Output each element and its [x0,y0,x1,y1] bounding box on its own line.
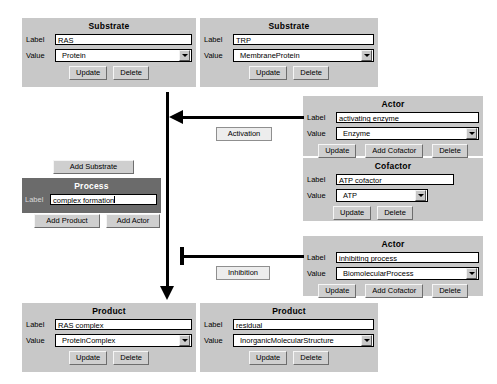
chevron-down-icon[interactable] [415,190,426,201]
add-cofactor-button[interactable]: Add Cofactor [365,284,423,298]
value-selected: Protein [56,51,179,60]
add-substrate-button[interactable]: Add Substrate [53,160,134,174]
value-caption: Value [26,51,55,60]
chevron-down-icon[interactable] [361,335,372,346]
panel-process: Process Label complex formation [22,178,161,213]
value-dropdown-product-1[interactable]: ProteinComplex [55,334,192,347]
add-cofactor-button[interactable]: Add Cofactor [365,144,423,158]
update-button[interactable]: Update [333,206,371,220]
button-row-substrate-2: Update Delete [200,65,378,84]
value-selected: InorganicMolecularStructure [234,336,361,345]
update-button[interactable]: Update [249,66,287,80]
chevron-down-icon[interactable] [179,335,190,346]
add-product-button[interactable]: Add Product [34,214,100,228]
delete-button[interactable]: Delete [432,284,468,298]
value-dropdown-substrate-2[interactable]: MembraneProtein [233,49,374,62]
label-caption: Label [204,320,233,329]
panel-title-process: Process [22,178,161,193]
button-row-product-1: Update Delete [22,350,196,369]
value-selected: BiomolecularProcess [337,269,466,278]
panel-title-product-2: Product [200,303,378,318]
panel-title-cofactor: Cofactor [303,158,483,173]
panel-substrate-2: Substrate Label TRP Value MembraneProtei… [200,18,378,87]
label-row-substrate-2: Label TRP [200,33,378,46]
panel-product-2: Product Label residual Value InorganicMo… [200,303,378,372]
inhibition-edge-label[interactable]: Inhibition [216,266,270,280]
label-caption: Label [307,253,336,262]
chevron-down-icon[interactable] [466,268,477,279]
label-input-cofactor[interactable]: ATP cofactor [336,174,454,185]
inhibition-connector-shaft [183,255,304,258]
delete-button[interactable]: Delete [377,206,413,220]
value-row-actor-2: Value BiomolecularProcess [303,266,483,281]
value-selected: ProteinComplex [56,336,179,345]
panel-product-1: Product Label RAS complex Value ProteinC… [22,303,196,372]
label-input-substrate-2[interactable]: TRP [233,34,374,45]
value-selected: MembraneProtein [234,51,361,60]
label-row-product-1: Label RAS complex [22,318,196,331]
label-row-cofactor: Label ATP cofactor [303,173,483,186]
label-caption: Label [25,195,50,204]
label-row-actor-1: Label activating enzyme [303,111,483,124]
update-button[interactable]: Update [318,144,356,158]
panel-cofactor: Cofactor Label ATP cofactor Value ATP Up… [303,158,483,221]
value-caption: Value [307,269,336,278]
delete-button[interactable]: Delete [113,66,149,80]
value-dropdown-product-2[interactable]: InorganicMolecularStructure [233,334,374,347]
button-row-substrate-1: Update Delete [22,65,196,84]
value-caption: Value [307,191,336,200]
label-row-actor-2: Label inhibiting process [303,251,483,264]
label-caption: Label [26,35,55,44]
panel-title-product-1: Product [22,303,196,318]
value-dropdown-substrate-1[interactable]: Protein [55,49,192,62]
delete-button[interactable]: Delete [432,144,468,158]
label-caption: Label [307,175,336,184]
panel-substrate-1: Substrate Label RAS Value Protein Update… [22,18,196,87]
button-row-cofactor: Update Delete [303,205,483,224]
update-button[interactable]: Update [318,284,356,298]
label-input-actor-1[interactable]: activating enzyme [336,112,479,123]
label-input-product-1[interactable]: RAS complex [55,319,192,330]
value-dropdown-cofactor[interactable]: ATP [336,189,428,202]
panel-title-substrate-2: Substrate [200,18,378,33]
value-dropdown-actor-1[interactable]: Enzyme [336,127,479,140]
update-button[interactable]: Update [69,66,107,80]
delete-button[interactable]: Delete [293,66,329,80]
delete-button[interactable]: Delete [113,351,149,365]
chevron-down-icon[interactable] [466,128,477,139]
label-caption: Label [26,320,55,329]
value-row-product-2: Value InorganicMolecularStructure [200,333,378,348]
label-input-substrate-1[interactable]: RAS [55,34,192,45]
panel-title-actor-1: Actor [303,96,483,111]
value-selected: ATP [337,191,415,200]
panel-actor-2: Actor Label inhibiting process Value Bio… [303,236,483,296]
value-row-substrate-1: Value Protein [22,48,196,63]
panel-title-substrate-1: Substrate [22,18,196,33]
label-row-product-2: Label residual [200,318,378,331]
add-actor-button[interactable]: Add Actor [106,214,160,228]
chevron-down-icon[interactable] [179,50,190,61]
chevron-down-icon[interactable] [361,50,372,61]
inhibition-tbar-icon [180,247,184,265]
value-selected: Enzyme [337,129,466,138]
activation-connector-shaft [182,116,304,119]
label-input-actor-2[interactable]: inhibiting process [336,252,479,263]
panel-title-actor-2: Actor [303,236,483,251]
button-row-actor-2: Update Add Cofactor Delete [303,283,483,302]
label-caption: Label [307,113,336,122]
label-row-process: Label complex formation [22,193,161,206]
panel-actor-1: Actor Label activating enzyme Value Enzy… [303,96,483,156]
value-row-product-1: Value ProteinComplex [22,333,196,348]
value-caption: Value [307,129,336,138]
label-input-product-2[interactable]: residual [233,319,374,330]
value-row-cofactor: Value ATP [303,188,483,203]
value-caption: Value [204,51,233,60]
activation-edge-label[interactable]: Activation [216,127,272,141]
value-row-substrate-2: Value MembraneProtein [200,48,378,63]
value-dropdown-actor-2[interactable]: BiomolecularProcess [336,267,479,280]
update-button[interactable]: Update [69,351,107,365]
label-row-substrate-1: Label RAS [22,33,196,46]
label-input-process[interactable]: complex formation [50,194,157,205]
delete-button[interactable]: Delete [293,351,329,365]
update-button[interactable]: Update [249,351,287,365]
